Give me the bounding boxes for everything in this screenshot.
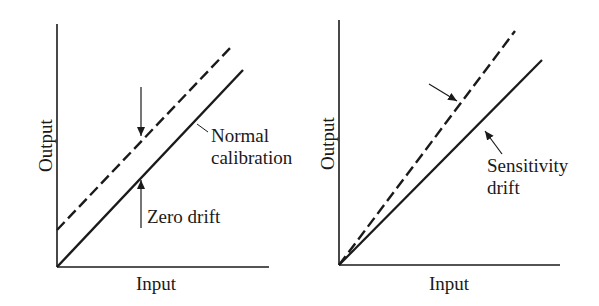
solid-pointer-arrow-icon <box>485 131 502 154</box>
normal-leader <box>197 124 208 132</box>
sensitivity-drift-panel: Sensitivity drift Input Output <box>317 20 569 294</box>
normal-calibration-line <box>57 70 243 267</box>
x-axis-label: Input <box>136 273 177 294</box>
normal-label-line2: calibration <box>211 147 293 168</box>
sensitivity-label-line1: Sensitivity <box>487 155 569 176</box>
zero-drift-label: Zero drift <box>147 206 221 227</box>
y-axis-label: Output <box>35 119 56 173</box>
zero-drift-panel: Normal calibration Zero drift Input Outp… <box>35 24 293 294</box>
x-axis-label: Input <box>429 273 470 294</box>
sensitivity-drift-line <box>339 31 515 265</box>
dashed-pointer-arrow-icon <box>429 84 457 101</box>
drift-diagrams: Normal calibration Zero drift Input Outp… <box>0 0 599 306</box>
normal-label-line1: Normal <box>211 125 269 146</box>
sensitivity-label-line2: drift <box>487 177 520 198</box>
zero-drift-line <box>57 46 232 230</box>
y-axis-label: Output <box>317 117 338 171</box>
